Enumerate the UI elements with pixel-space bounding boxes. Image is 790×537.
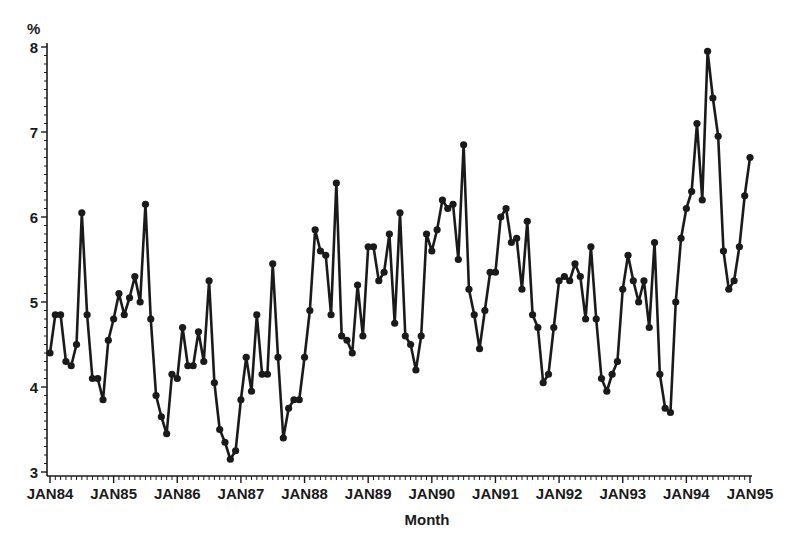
data-point-marker xyxy=(683,205,690,212)
data-point-marker xyxy=(380,269,387,276)
x-tick-label: JAN85 xyxy=(90,485,137,502)
x-tick-label: JAN87 xyxy=(218,485,265,502)
x-tick-label: JAN93 xyxy=(599,485,646,502)
x-axis: JAN84JAN85JAN86JAN87JAN88JAN89JAN90JAN91… xyxy=(27,476,774,502)
data-point-marker xyxy=(609,371,616,378)
data-point-marker xyxy=(396,209,403,216)
line-chart: 345678 JAN84JAN85JAN86JAN87JAN88JAN89JAN… xyxy=(0,0,790,537)
data-point-marker xyxy=(205,277,212,284)
data-point-marker xyxy=(163,430,170,437)
y-tick-label: 7 xyxy=(30,124,38,141)
data-point-marker xyxy=(736,243,743,250)
data-point-marker xyxy=(333,179,340,186)
data-point-marker xyxy=(571,260,578,267)
data-point-marker xyxy=(646,324,653,331)
data-point-marker xyxy=(126,294,133,301)
data-point-marker xyxy=(518,286,525,293)
data-point-marker xyxy=(587,243,594,250)
data-point-marker xyxy=(725,286,732,293)
data-point-marker xyxy=(667,409,674,416)
x-tick-label: JAN90 xyxy=(408,485,455,502)
data-point-marker xyxy=(354,281,361,288)
data-point-marker xyxy=(121,311,128,318)
data-point-marker xyxy=(635,298,642,305)
data-point-marker xyxy=(179,324,186,331)
data-point-marker xyxy=(699,196,706,203)
data-point-marker xyxy=(105,337,112,344)
data-point-marker xyxy=(471,311,478,318)
data-point-marker xyxy=(619,286,626,293)
data-point-marker xyxy=(449,201,456,208)
data-point-marker xyxy=(195,328,202,335)
x-tick-label: JAN88 xyxy=(281,485,328,502)
data-point-marker xyxy=(274,354,281,361)
data-point-marker xyxy=(84,311,91,318)
data-point-marker xyxy=(715,133,722,140)
x-tick-label: JAN92 xyxy=(536,485,583,502)
data-point-marker xyxy=(375,277,382,284)
data-point-marker xyxy=(566,277,573,284)
data-point-marker xyxy=(540,379,547,386)
x-tick-label: JAN84 xyxy=(27,485,74,502)
data-point-marker xyxy=(131,273,138,280)
data-series xyxy=(46,48,753,463)
data-point-marker xyxy=(598,375,605,382)
chart-canvas: 345678 JAN84JAN85JAN86JAN87JAN88JAN89JAN… xyxy=(0,0,790,537)
data-point-marker xyxy=(402,332,409,339)
data-point-marker xyxy=(343,337,350,344)
x-tick-label: JAN95 xyxy=(727,485,774,502)
data-point-marker xyxy=(110,315,117,322)
data-point-marker xyxy=(391,320,398,327)
data-point-marker xyxy=(296,396,303,403)
data-point-marker xyxy=(280,434,287,441)
data-point-marker xyxy=(746,154,753,161)
data-point-marker xyxy=(465,286,472,293)
y-tick-label: 5 xyxy=(30,294,38,311)
data-point-marker xyxy=(529,311,536,318)
y-axis-unit-label: % xyxy=(27,20,40,37)
data-point-marker xyxy=(704,48,711,55)
x-tick-label: JAN89 xyxy=(345,485,392,502)
data-point-marker xyxy=(349,349,356,356)
data-point-marker xyxy=(677,235,684,242)
data-point-marker xyxy=(152,392,159,399)
y-axis: 345678 xyxy=(30,39,47,481)
data-point-marker xyxy=(306,307,313,314)
y-tick-label: 6 xyxy=(30,209,38,226)
data-point-marker xyxy=(73,341,80,348)
data-point-marker xyxy=(237,396,244,403)
data-point-marker xyxy=(423,230,430,237)
data-point-marker xyxy=(640,277,647,284)
data-point-marker xyxy=(370,243,377,250)
data-point-marker xyxy=(709,94,716,101)
data-point-marker xyxy=(137,298,144,305)
y-tick-label: 8 xyxy=(30,39,38,56)
data-point-marker xyxy=(439,196,446,203)
data-point-marker xyxy=(720,247,727,254)
data-point-marker xyxy=(327,311,334,318)
data-point-marker xyxy=(481,307,488,314)
data-point-marker xyxy=(78,209,85,216)
data-point-marker xyxy=(386,230,393,237)
data-point-marker xyxy=(158,413,165,420)
x-tick-label: JAN94 xyxy=(663,485,710,502)
x-tick-label: JAN91 xyxy=(472,485,519,502)
y-tick-label: 4 xyxy=(30,379,39,396)
data-point-marker xyxy=(227,456,234,463)
data-point-marker xyxy=(741,192,748,199)
data-point-marker xyxy=(624,252,631,259)
data-point-marker xyxy=(476,345,483,352)
data-point-marker xyxy=(232,447,239,454)
data-point-marker xyxy=(656,371,663,378)
data-point-marker xyxy=(190,362,197,369)
x-tick-label: JAN86 xyxy=(154,485,201,502)
data-point-marker xyxy=(577,273,584,280)
data-point-marker xyxy=(688,188,695,195)
data-point-marker xyxy=(455,256,462,263)
data-point-marker xyxy=(57,311,64,318)
data-point-marker xyxy=(412,366,419,373)
data-point-marker xyxy=(211,379,218,386)
data-point-marker xyxy=(94,375,101,382)
data-point-marker xyxy=(243,354,250,361)
data-point-marker xyxy=(614,358,621,365)
